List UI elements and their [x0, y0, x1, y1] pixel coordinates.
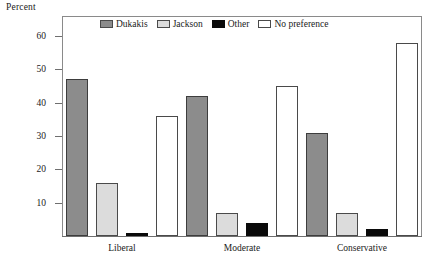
x-axis-label-liberal: Liberal [108, 243, 135, 253]
x-axis-label-conservative: Conservative [337, 243, 387, 253]
bar-conservative-jackson [336, 213, 358, 236]
bar-liberal-other [126, 233, 148, 236]
y-tick-label-30: 30 [16, 131, 46, 141]
y-tick-label-40: 40 [16, 98, 46, 108]
chart-root: Percent 102030405060 Dukakis Jackson Oth… [0, 0, 428, 265]
bar-moderate-other [246, 223, 268, 236]
x-axis-label-moderate: Moderate [224, 243, 260, 253]
bar-moderate-jackson [216, 213, 238, 236]
bar-conservative-dukakis [306, 133, 328, 236]
bar-moderate-dukakis [186, 96, 208, 236]
bar-conservative-other [366, 229, 388, 236]
y-tick-label-20: 20 [16, 164, 46, 174]
y-axis-ticks: 102030405060 [0, 0, 62, 265]
bar-liberal-jackson [96, 183, 118, 236]
bar-moderate-nopref [276, 86, 298, 236]
y-tick-label-50: 50 [16, 64, 46, 74]
y-tick-label-60: 60 [16, 31, 46, 41]
plot-area [62, 16, 422, 237]
bar-conservative-nopref [396, 43, 418, 236]
y-tick-label-10: 10 [16, 198, 46, 208]
bar-liberal-dukakis [66, 79, 88, 236]
x-axis-baseline [62, 236, 422, 237]
bar-liberal-nopref [156, 116, 178, 236]
